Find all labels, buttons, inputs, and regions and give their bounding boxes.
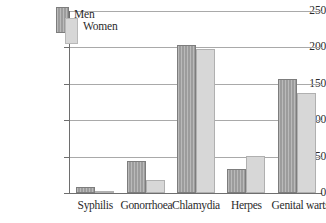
bar-men-herpes — [227, 169, 246, 193]
x-tick-label-gonorrhoea: Gonorrhoea — [120, 199, 170, 212]
x-tick-label-syphilis: Syphilis — [70, 199, 120, 212]
x-tick-label-herpes: Herpes — [221, 199, 271, 212]
bar-group — [278, 11, 316, 193]
legend-label-women: Women — [83, 21, 117, 33]
bar-women-herpes — [246, 156, 265, 193]
bar-men-genital-warts — [278, 79, 297, 193]
legend-swatch-women — [65, 18, 78, 44]
legend-label-men: Men — [74, 9, 94, 21]
bar-women-syphilis — [95, 191, 114, 193]
x-tick-label-chlamydia: Chlamydia — [171, 199, 221, 212]
y-tick-mark — [64, 193, 70, 194]
bar-women-gonorrhoea — [146, 180, 165, 193]
bar-group — [227, 11, 265, 193]
bar-men-gonorrhoea — [127, 161, 146, 193]
bar-men-chlamydia — [177, 45, 196, 194]
bar-women-chlamydia — [196, 49, 215, 193]
bar-women-genital-warts — [297, 93, 316, 193]
bar-chart: 050100150200250 SyphilisGonorrhoeaChlamy… — [0, 0, 326, 223]
bar-men-syphilis — [76, 187, 95, 193]
x-tick-label-genital-warts: Genital warts — [272, 199, 322, 212]
legend: Men Women — [56, 7, 176, 43]
bar-group — [177, 11, 215, 193]
